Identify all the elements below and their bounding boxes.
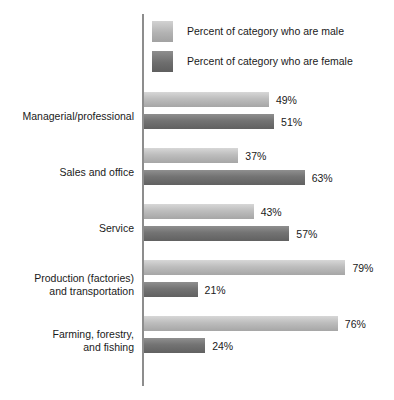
category-bars: 43% 57% (144, 204, 394, 248)
bar-row-male: 76% (144, 316, 394, 331)
legend-swatch-female-icon (152, 51, 173, 72)
bar-value-male: 79% (352, 262, 373, 274)
bar-value-male: 37% (245, 150, 266, 162)
bar-value-female: 21% (205, 284, 226, 296)
category-label-line: Production (factories) (2, 272, 134, 285)
category-label: Service (2, 222, 134, 235)
bar-male (144, 148, 238, 163)
chart-legend: Percent of category who are male Percent… (152, 16, 353, 76)
bar-row-female: 51% (144, 114, 394, 129)
bar-row-female: 21% (144, 282, 394, 297)
bar-male (144, 260, 345, 275)
category-bars: 76% 24% (144, 316, 394, 360)
bar-female (144, 114, 274, 129)
bar-value-female: 24% (212, 340, 233, 352)
bar-male (144, 204, 254, 219)
legend-label-male: Percent of category who are male (187, 25, 344, 37)
bar-female (144, 338, 205, 353)
bar-row-female: 24% (144, 338, 394, 353)
legend-label-female: Percent of category who are female (187, 55, 353, 67)
category-group: Service 43% 57% (0, 200, 394, 256)
category-label-line: Service (2, 222, 134, 235)
bar-row-male: 43% (144, 204, 394, 219)
legend-swatch-male-icon (152, 21, 173, 42)
bar-value-female: 51% (281, 116, 302, 128)
category-label: Production (factories) and transportatio… (2, 272, 134, 297)
bar-row-male: 37% (144, 148, 394, 163)
bar-male (144, 92, 269, 107)
category-group: Production (factories) and transportatio… (0, 256, 394, 312)
category-group: Sales and office 37% 63% (0, 144, 394, 200)
bar-row-female: 57% (144, 226, 394, 241)
bar-male (144, 316, 338, 331)
bar-row-female: 63% (144, 170, 394, 185)
bar-value-female: 57% (296, 228, 317, 240)
category-bars: 79% 21% (144, 260, 394, 304)
bar-value-male: 43% (261, 206, 282, 218)
bar-value-female: 63% (312, 172, 333, 184)
legend-item-female: Percent of category who are female (152, 46, 353, 76)
category-label: Farming, forestry, and fishing (2, 328, 134, 353)
category-bars: 37% 63% (144, 148, 394, 192)
bar-value-male: 76% (345, 318, 366, 330)
bar-female (144, 226, 289, 241)
category-label-line: and fishing (2, 340, 134, 353)
category-label-line: Sales and office (2, 166, 134, 179)
category-label: Sales and office (2, 166, 134, 179)
category-label-line: Managerial/professional (2, 110, 134, 123)
bar-female (144, 282, 198, 297)
bar-female (144, 170, 305, 185)
category-group: Managerial/professional 49% 51% (0, 88, 394, 144)
legend-item-male: Percent of category who are male (152, 16, 353, 46)
bar-row-male: 49% (144, 92, 394, 107)
category-label-line: Farming, forestry, (2, 328, 134, 341)
category-label-line: and transportation (2, 284, 134, 297)
category-label: Managerial/professional (2, 110, 134, 123)
bar-value-male: 49% (276, 94, 297, 106)
bar-row-male: 79% (144, 260, 394, 275)
category-bars: 49% 51% (144, 92, 394, 136)
bar-chart: Percent of category who are male Percent… (0, 0, 394, 400)
chart-plot-area: Managerial/professional 49% 51% Sales an… (0, 88, 394, 368)
category-group: Farming, forestry, and fishing 76% 24% (0, 312, 394, 368)
